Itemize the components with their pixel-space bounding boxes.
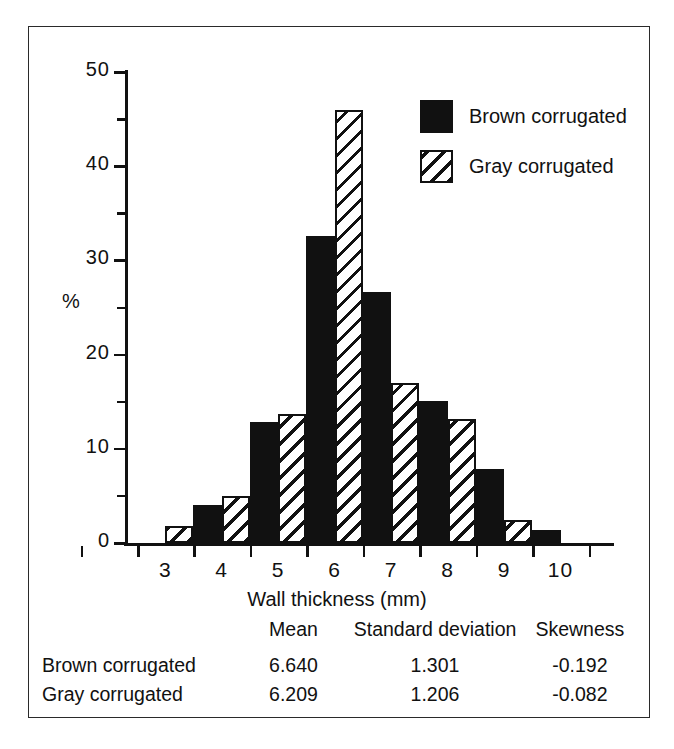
cell-brown-sd: 1.301 [348,651,521,680]
y-tick-minor [117,401,125,404]
x-tick [306,546,309,557]
y-axis-title: % [62,290,80,313]
bar-gray-7 [391,383,419,543]
x-tick-label: 4 [202,558,242,582]
y-tick-label: 0 [64,529,110,552]
x-tick-label: 10 [541,558,581,582]
column-header-skewness: Skewness [522,616,638,651]
cell-gray-skewness: -0.082 [522,680,638,709]
bar-brown-6 [306,236,334,543]
legend-item-gray-corrugated: Gray corrugated [420,150,650,183]
bar-brown-9 [476,469,504,543]
x-tick [589,546,592,557]
x-tick-label: 6 [315,558,355,582]
x-axis-title: Wall thickness (mm) [0,588,674,611]
x-tick [363,546,366,557]
y-tick-major [114,542,125,545]
bar-gray-9 [504,520,532,543]
y-tick-major [114,71,125,74]
bar-gray-4 [222,496,250,543]
y-tick-major [114,448,125,451]
bar-brown-5 [250,422,278,543]
table-row: Gray corrugated 6.209 1.206 -0.082 [38,680,638,709]
cell-gray-mean: 6.209 [239,680,349,709]
y-tick-label: 50 [64,58,110,81]
x-tick-label: 5 [258,558,298,582]
legend-label-gray: Gray corrugated [469,155,614,178]
column-header-standard-deviation: Standard deviation [348,616,521,651]
bar-brown-7 [363,292,391,543]
cell-gray-sd: 1.206 [348,680,521,709]
y-tick-major [114,165,125,168]
cell-brown-skewness: -0.192 [522,651,638,680]
y-tick-minor [117,118,125,121]
y-tick-label: 30 [64,246,110,269]
x-tick [419,546,422,557]
chart-legend: Brown corrugated Gray corrugated [420,100,650,200]
x-tick [137,546,140,557]
legend-item-brown-corrugated: Brown corrugated [420,100,650,133]
bar-brown-10 [532,530,560,543]
x-tick-label: 3 [145,558,185,582]
column-header-mean: Mean [239,616,349,651]
bar-brown-8 [419,401,447,543]
x-axis-spine [124,543,614,546]
bar-gray-5 [278,414,306,543]
table-header-row: Mean Standard deviation Skewness [38,616,638,651]
bar-gray-6 [335,110,363,543]
y-tick-label: 20 [64,341,110,364]
y-tick-minor [117,212,125,215]
y-tick-major [114,354,125,357]
x-tick [476,546,479,557]
table-corner-cell [38,616,239,651]
x-tick-label: 7 [371,558,411,582]
y-tick-minor [117,307,125,310]
bar-brown-4 [193,505,221,543]
y-tick-label: 10 [64,435,110,458]
x-tick-label: 8 [428,558,468,582]
row-label-brown-corrugated: Brown corrugated [38,651,239,680]
statistics-table: Mean Standard deviation Skewness Brown c… [38,616,638,709]
x-tick [193,546,196,557]
y-tick-minor [117,495,125,498]
x-tick [81,546,84,557]
x-tick-label: 9 [484,558,524,582]
bar-gray-3 [165,526,193,543]
table-row: Brown corrugated 6.640 1.301 -0.192 [38,651,638,680]
x-tick [250,546,253,557]
y-tick-label: 40 [64,152,110,175]
hatched-swatch-icon [420,150,453,183]
cell-brown-mean: 6.640 [239,651,349,680]
legend-label-brown: Brown corrugated [469,105,627,128]
solid-black-swatch-icon [420,100,453,133]
figure-panel: 01020304050 % Wall thickness (mm) Brown … [0,0,674,749]
x-tick [532,546,535,557]
bar-gray-8 [448,419,476,543]
y-tick-major [114,259,125,262]
row-label-gray-corrugated: Gray corrugated [38,680,239,709]
